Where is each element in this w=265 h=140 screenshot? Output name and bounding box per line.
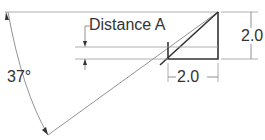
angle-label: 37° xyxy=(7,69,31,85)
triangle-hypotenuse xyxy=(160,12,218,65)
height-label: 2.0 xyxy=(241,28,263,44)
width-label: 2.0 xyxy=(177,69,199,85)
arrow-head xyxy=(42,127,48,135)
distance-a-label: Distance A xyxy=(89,17,165,33)
arrow-head xyxy=(83,59,87,65)
arrow-head xyxy=(83,41,87,47)
